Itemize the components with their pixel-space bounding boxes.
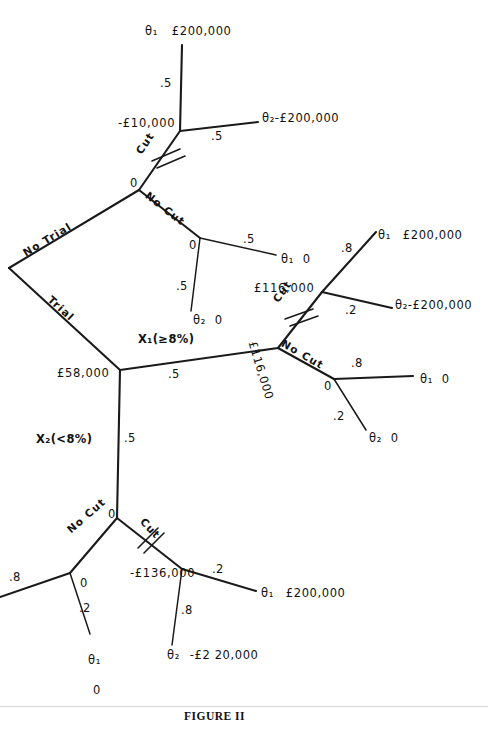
probability-label-x1cut-theta2: .2 xyxy=(345,305,357,317)
probability-label-x1nocut-theta1: .8 xyxy=(351,358,363,370)
payoff-value: 0 xyxy=(215,313,223,327)
probability-label-x2cut-theta2: .8 xyxy=(181,605,193,617)
decision-node-value-x2: 0 xyxy=(108,509,115,521)
decision-tree-figure: θ₁£200,000 .5 -£10,000 .5 θ₂-£200,000 Cu… xyxy=(0,0,488,737)
payoff-value: 0 xyxy=(303,252,311,266)
payoff-value: -£200,000 xyxy=(275,111,339,125)
terminal-label-x1cut-theta2: θ₂-£200,000 xyxy=(395,300,472,312)
terminal-label-x1nocut-theta2: θ₂0 xyxy=(369,433,399,445)
probability-label-x1: .5 xyxy=(168,369,180,381)
payoff-value: £200,000 xyxy=(286,586,346,600)
chance-node-value-no-cut-x1: 0 xyxy=(324,381,331,393)
probability-label-x2nocut-theta2: .2 xyxy=(79,603,91,615)
theta-symbol: θ₁ xyxy=(261,586,274,600)
theta-symbol: θ₂ xyxy=(193,313,206,327)
decision-node-value-no-trial: 0 xyxy=(130,178,137,190)
probability-label-nocut-theta2-mid: .5 xyxy=(176,281,188,293)
test-result-label-x1: X₁(≥8%) xyxy=(138,334,194,346)
terminal-label-theta1-top: θ₁£200,000 xyxy=(145,26,232,38)
terminal-label-x1nocut-theta1: θ₁0 xyxy=(420,374,450,386)
payoff-value: 0 xyxy=(442,372,450,386)
page-divider-rule xyxy=(0,706,488,707)
edge-cut-theta1-top xyxy=(180,45,182,131)
terminal-label-x2cut-theta1: θ₁£200,000 xyxy=(261,588,346,600)
edge-trial-x2 xyxy=(117,370,120,518)
payoff-value: £200,000 xyxy=(172,24,232,38)
theta-symbol: θ₂ xyxy=(395,298,408,312)
theta-symbol: θ₂ xyxy=(167,648,180,662)
terminal-label-theta2-mid: θ₂0 xyxy=(193,315,223,327)
chance-node-value-neg136000: -£136,000 xyxy=(130,568,195,580)
theta-symbol: θ₁ xyxy=(420,372,433,386)
terminal-value-x2nocut-theta1: 0 xyxy=(93,685,101,697)
chance-node-value-no-cut-no-trial: 0 xyxy=(189,240,196,252)
prune-slash-x1-1 xyxy=(285,309,313,319)
probability-label-x2nocut-theta1: .8 xyxy=(9,572,21,584)
payoff-value: -£200,000 xyxy=(408,298,472,312)
payoff-value: £200,000 xyxy=(403,228,463,242)
probability-label-x1nocut-theta2: .2 xyxy=(333,411,345,423)
theta-symbol: θ₁ xyxy=(281,252,294,266)
test-result-label-x2: X₂(<8%) xyxy=(36,434,92,446)
probability-label-cut-theta2-top: .5 xyxy=(211,131,223,143)
terminal-label-x1cut-theta1: θ₁£200,000 xyxy=(378,230,463,242)
edge-nocut-theta1-mid xyxy=(200,238,276,255)
probability-label-x2: .5 xyxy=(124,433,136,445)
chance-node-value-58000: £58,000 xyxy=(57,368,109,380)
terminal-label-theta2-top: θ₂-£200,000 xyxy=(262,113,339,125)
chance-node-value-no-cut-x2: 0 xyxy=(80,578,87,590)
probability-label-x1cut-theta1: .8 xyxy=(341,243,353,255)
theta-symbol: θ₂ xyxy=(369,431,382,445)
payoff-value: 0 xyxy=(391,431,399,445)
edge-x1nocut-theta1 xyxy=(334,376,413,379)
node-value-neg10000: -£10,000 xyxy=(118,118,175,130)
terminal-label-x2cut-theta2: θ₂-£2 20,000 xyxy=(167,650,259,662)
terminal-label-theta1-mid: θ₁0 xyxy=(281,254,311,266)
probability-label-cut-theta1-top: .5 xyxy=(160,78,172,90)
edge-x1cut-theta2 xyxy=(322,292,392,308)
prune-slash-x1-2 xyxy=(290,316,318,326)
probability-label-x2cut-theta1: .2 xyxy=(212,564,224,576)
terminal-label-x2nocut-theta1: θ₁ xyxy=(88,655,101,667)
probability-label-nocut-theta1-mid: .5 xyxy=(243,234,255,246)
theta-symbol: θ₁ xyxy=(88,653,101,667)
theta-symbol: θ₂ xyxy=(262,111,275,125)
figure-caption: FIGURE II xyxy=(184,710,245,722)
theta-symbol: θ₁ xyxy=(145,24,158,38)
theta-symbol: θ₁ xyxy=(378,228,391,242)
payoff-value: -£2 20,000 xyxy=(190,648,259,662)
